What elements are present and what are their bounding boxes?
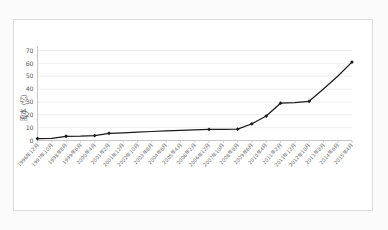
data-series-markers xyxy=(36,60,354,140)
x-axis-tick-labels: 1996年12月1997年10月1998年8月1999年6月2000年4月200… xyxy=(16,142,355,168)
y-axis-title: 股本（亿） xyxy=(19,91,28,121)
y-axis-tick-label: 60 xyxy=(26,60,34,67)
data-point-marker xyxy=(93,134,97,138)
line-chart-svg: 010203040506070 1996年12月1997年10月1998年8月1… xyxy=(0,0,388,230)
y-axis-tick-label: 50 xyxy=(26,72,34,79)
y-axis-tick-label: 0 xyxy=(30,137,34,144)
chart-figure: 010203040506070 1996年12月1997年10月1998年8月1… xyxy=(0,0,388,230)
data-point-marker xyxy=(36,137,40,141)
y-axis-title-text: 股本（亿） xyxy=(19,91,28,121)
y-axis-tick-label: 10 xyxy=(26,124,34,131)
gridlines-group xyxy=(38,47,353,141)
data-point-marker xyxy=(107,131,111,135)
y-axis-tick-label: 70 xyxy=(26,47,34,54)
data-point-marker xyxy=(64,134,68,138)
data-series-line xyxy=(38,62,353,139)
data-point-marker xyxy=(207,128,211,132)
